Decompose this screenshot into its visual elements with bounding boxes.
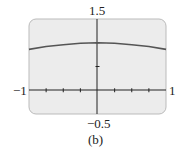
x-max-label: 1 bbox=[169, 84, 176, 97]
y-max-label: 1.5 bbox=[89, 4, 105, 17]
x-min-label: −1 bbox=[13, 84, 27, 97]
figure-caption: (b) bbox=[88, 133, 103, 146]
y-min-label: −0.5 bbox=[87, 117, 111, 130]
